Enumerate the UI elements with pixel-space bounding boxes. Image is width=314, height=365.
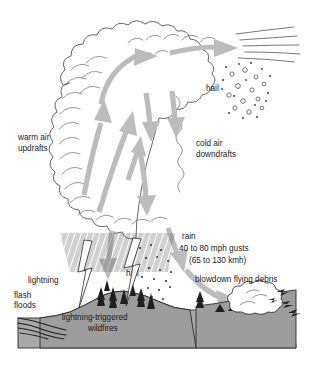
cold-air-downdrafts-label-line1: cold air bbox=[196, 139, 223, 148]
warm-air-updrafts-label-line1: warm air bbox=[17, 133, 50, 142]
hail-particles-upper bbox=[221, 62, 271, 119]
warm-air-updrafts-label-line2: updrafts bbox=[18, 144, 48, 153]
gusts-label-line1: 40 to 80 mph gusts bbox=[179, 244, 249, 253]
lightning-label: lightning bbox=[28, 276, 59, 285]
flash-floods-label-line2: floods bbox=[14, 301, 36, 310]
rain-hatching bbox=[55, 230, 180, 276]
hail-label-upper: hail bbox=[206, 84, 219, 93]
rain-label: rain bbox=[182, 232, 196, 241]
blowdown-dust-cloud bbox=[227, 280, 283, 314]
wildfires-label-line2: wildfires bbox=[87, 324, 118, 333]
cold-air-downdrafts-label-line2: downdrafts bbox=[196, 150, 236, 159]
flash-floods-label-line1: flash bbox=[14, 291, 32, 300]
wildfires-label-line1: lightning-triggered bbox=[62, 313, 128, 322]
gusts-label-line2: (65 to 130 kmh) bbox=[189, 256, 247, 265]
thunderstorm-hazards-diagram: hail rain hail ligh bbox=[0, 0, 314, 365]
anvil-wind-lines bbox=[236, 27, 300, 62]
blowdown-label: blowdown flying debris bbox=[195, 275, 277, 284]
